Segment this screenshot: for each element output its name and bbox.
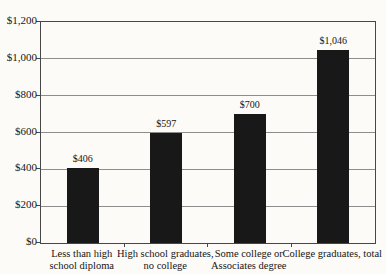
x-axis-tick [124,243,125,247]
bar-2 [150,133,182,243]
y-axis-label: $400 [0,161,37,174]
y-axis-label: $1,000 [0,51,37,64]
x-axis-category-line: College graduates, total [280,248,384,260]
x-axis-category-line: Associates degree [197,260,301,272]
bar-1 [67,168,99,243]
y-axis-label: $600 [0,125,37,138]
plot-area: $406$597$700$1,046 [40,21,376,244]
y-axis-label: $800 [0,88,37,101]
bar-value-label: $406 [48,153,118,165]
y-axis-label: $1,200 [0,14,37,27]
y-axis-label: $0 [0,235,37,248]
x-axis-category-label: College graduates, total [280,248,384,260]
bar-chart: $406$597$700$1,046 $0$200$400$600$800$1,… [0,0,386,274]
y-axis-label: $200 [0,198,37,211]
x-axis-tick [207,243,208,247]
bar-4 [317,50,349,243]
bar-value-label: $700 [215,99,285,111]
bar-value-label: $597 [131,118,201,130]
bar-3 [234,114,266,243]
bar-value-label: $1,046 [298,35,368,47]
x-axis-tick [291,243,292,247]
